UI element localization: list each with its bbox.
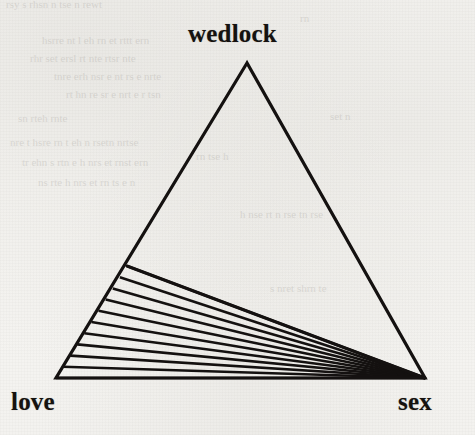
vertex-label-love: love bbox=[11, 388, 55, 416]
figure-root: rsy s rhsn n tse n rewt hsrre nt l eh rn… bbox=[0, 0, 475, 435]
triangle-diagram bbox=[0, 0, 475, 435]
vertex-label-wedlock: wedlock bbox=[188, 20, 277, 48]
hatch-line bbox=[84, 333, 425, 378]
main-triangle-outline bbox=[56, 63, 425, 378]
hatch-line bbox=[106, 300, 425, 378]
vertex-label-sex: sex bbox=[398, 388, 432, 416]
